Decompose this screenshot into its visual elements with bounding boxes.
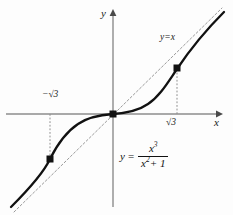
function-curve bbox=[11, 12, 224, 207]
equation-equals-sign: = bbox=[128, 150, 134, 162]
y-axis-arrowhead bbox=[110, 9, 117, 16]
point-marker-positive-sqrt3 bbox=[174, 65, 181, 72]
tick-label-positive-sqrt3: √3 bbox=[166, 118, 176, 128]
equation-numerator: x3 bbox=[146, 143, 161, 156]
point-marker-negative-sqrt3 bbox=[47, 156, 54, 163]
y-axis-label: y bbox=[101, 8, 106, 19]
asymptote-label: y=x bbox=[160, 33, 175, 43]
math-figure: y x y=x −√3 √3 y = x3 x2+ 1 bbox=[0, 0, 233, 215]
asymptote-line-y-equals-x bbox=[14, 8, 222, 212]
graph-canvas bbox=[0, 0, 233, 215]
equation-lhs: y bbox=[120, 150, 125, 162]
point-marker-origin bbox=[110, 111, 117, 118]
denominator-tail: + 1 bbox=[150, 157, 166, 169]
equation-denominator: x2+ 1 bbox=[138, 156, 168, 170]
numerator-exponent: 3 bbox=[154, 140, 158, 149]
x-axis-label: x bbox=[214, 117, 219, 128]
tick-label-negative-sqrt3: −√3 bbox=[42, 90, 58, 100]
function-equation: y = x3 x2+ 1 bbox=[120, 143, 168, 169]
equation-fraction: x3 x2+ 1 bbox=[138, 143, 168, 169]
